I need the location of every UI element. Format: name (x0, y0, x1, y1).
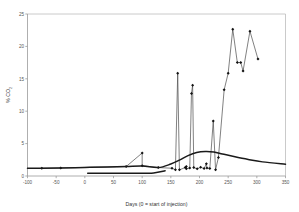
data-point (205, 166, 208, 169)
x-tick-label--100: -100 (23, 180, 33, 185)
y-tick-label-5: 5 (22, 141, 25, 146)
series-1-curve (28, 151, 286, 168)
data-point (231, 28, 234, 31)
data-point (170, 167, 173, 170)
plot-axes (28, 14, 286, 176)
data-point (174, 168, 177, 171)
data-point (188, 166, 191, 169)
y-tick-label-20: 20 (19, 44, 25, 49)
x-tick-label-0: 0 (84, 180, 87, 185)
series-0-line (42, 29, 258, 170)
y-tick-label-0: 0 (22, 174, 25, 179)
series-2-baseline (88, 171, 165, 173)
data-point (217, 156, 220, 159)
data-point (205, 162, 208, 165)
chart-container: 0510152025-100-50050100150200250300350Da… (0, 0, 299, 212)
y-tick-label-25: 25 (19, 12, 25, 17)
x-tick-label-300: 300 (253, 180, 261, 185)
data-point (227, 72, 230, 75)
data-point (192, 166, 195, 169)
data-point (199, 166, 202, 169)
data-point (223, 88, 226, 91)
data-point (191, 84, 194, 87)
data-point (212, 119, 215, 122)
data-point (236, 61, 239, 64)
data-point (256, 58, 259, 61)
data-point (248, 30, 251, 33)
x-tick-label--50: -50 (53, 180, 60, 185)
data-point (203, 167, 206, 170)
y-tick-label-15: 15 (19, 77, 25, 82)
x-tick-label-200: 200 (196, 180, 204, 185)
data-point (176, 72, 179, 75)
data-point (196, 167, 199, 170)
x-tick-label-250: 250 (224, 180, 232, 185)
x-tick-label-350: 350 (282, 180, 290, 185)
x-tick-label-50: 50 (111, 180, 117, 185)
x-axis-label: Days (0 = start of injection) (126, 201, 188, 207)
data-point (178, 168, 181, 171)
data-point (214, 168, 217, 171)
x-tick-label-150: 150 (167, 180, 175, 185)
data-point (239, 61, 242, 64)
data-point (208, 167, 211, 170)
x-tick-label-100: 100 (138, 180, 146, 185)
y-axis-label: % CO2 (5, 87, 13, 103)
y-tick-label-10: 10 (19, 109, 25, 114)
co2-line-chart: 0510152025-100-50050100150200250300350Da… (0, 0, 299, 212)
data-point (242, 70, 245, 73)
plot-frame (28, 14, 286, 176)
